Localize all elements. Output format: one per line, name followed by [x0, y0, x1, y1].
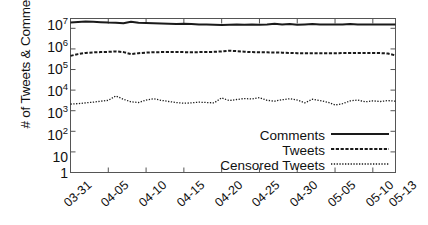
x-axis-tick-labels: 03-3104-0504-1004-1504-2004-2504-3005-05…: [0, 0, 428, 225]
chart-figure: # of Tweets & Comments 107 106 105 104 1…: [0, 0, 428, 225]
